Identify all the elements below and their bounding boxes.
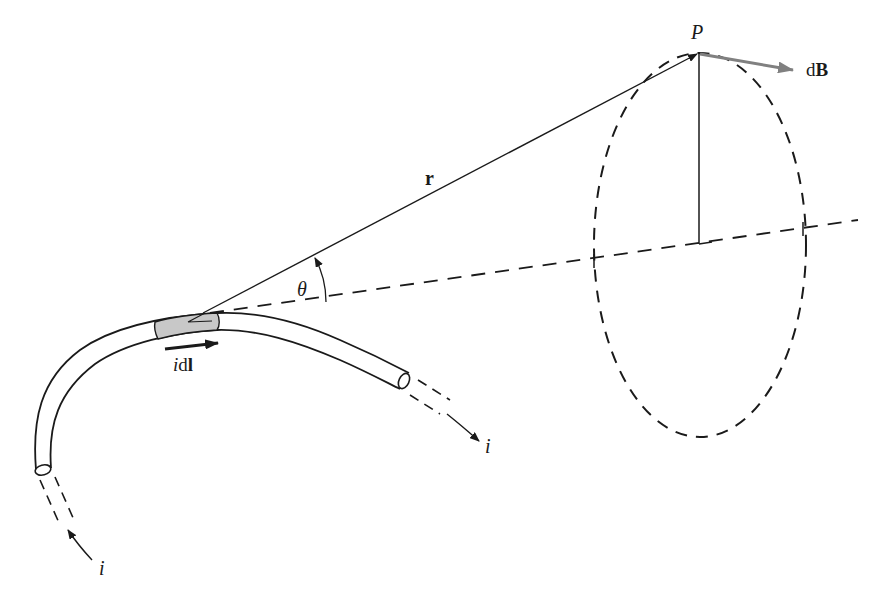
- biot-savart-diagram: P dB r θ idl i i: [0, 0, 879, 608]
- current-out-arrow: [447, 414, 479, 441]
- perpendicular-foot: [699, 242, 712, 244]
- idl-label: idl: [173, 355, 193, 374]
- diagram-graphics: [0, 0, 879, 608]
- wire-continuation-bottom-2: [55, 477, 74, 520]
- r-vector: [203, 54, 697, 313]
- point-P-label: P: [691, 22, 703, 42]
- wire-end-cap-bottom: [34, 463, 52, 477]
- current-out-label: i: [485, 436, 491, 456]
- dB-vector: [700, 54, 793, 70]
- current-in-arrow: [68, 530, 92, 560]
- dB-label: dB: [806, 60, 828, 79]
- element-axis-dashed: [210, 220, 858, 313]
- wire-edge-inner: [51, 330, 400, 468]
- dB-label-B: B: [816, 59, 829, 80]
- r-vector-label: r: [425, 168, 434, 188]
- theta-arc: [315, 258, 326, 302]
- theta-label: θ: [297, 279, 307, 299]
- dB-label-d: d: [806, 59, 816, 80]
- idl-label-l: l: [188, 354, 193, 375]
- field-circle: [594, 53, 806, 437]
- idl-arrow: [165, 343, 218, 349]
- wire-continuation-right-1: [418, 380, 450, 400]
- current-in-label: i: [99, 558, 105, 578]
- wire-continuation-bottom-1: [40, 480, 60, 525]
- wire-continuation-right-2: [410, 395, 440, 414]
- current-element-shaded: [155, 313, 220, 339]
- wire-edge-outer: [35, 313, 409, 470]
- idl-label-d: d: [178, 354, 188, 375]
